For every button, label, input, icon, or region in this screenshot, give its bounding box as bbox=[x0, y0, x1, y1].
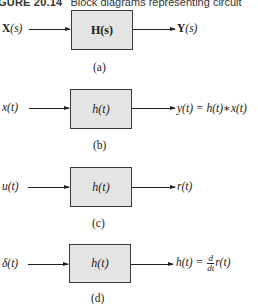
input-text: x(t) bbox=[2, 101, 18, 113]
output-rhs: r(t) bbox=[215, 256, 230, 268]
input-signal-d: δ(t) bbox=[2, 257, 18, 269]
output-signal-b: y(t) = h(t)∗x(t) bbox=[177, 101, 247, 115]
input-arrow-a bbox=[29, 29, 70, 30]
input-signal-c: u(t) bbox=[2, 180, 19, 192]
input-arrow-b bbox=[29, 108, 69, 109]
impulse-response-block-c: h(t) bbox=[70, 167, 132, 207]
output-arrow-d bbox=[131, 264, 173, 265]
output-lhs: h(t) = bbox=[176, 256, 203, 268]
sublabel-d: (d) bbox=[91, 292, 104, 304]
sublabel-b: (b) bbox=[93, 139, 106, 151]
derivative-fraction: d dt bbox=[207, 254, 214, 273]
block-label-b: h(t) bbox=[92, 102, 109, 117]
transfer-block-a: H(s) bbox=[71, 10, 133, 50]
impulse-response-block-d: h(t) bbox=[69, 244, 131, 283]
output-arrow-a bbox=[133, 29, 175, 30]
block-label-a: H(s) bbox=[91, 23, 113, 38]
output-signal-d: h(t) = d dt r(t) bbox=[176, 254, 230, 273]
output-signal-a: Y(s) bbox=[177, 22, 197, 34]
figure-caption: GURE 20.14 Block diagrams representing c… bbox=[0, 0, 242, 8]
fraction-denominator: dt bbox=[207, 264, 214, 273]
sublabel-c: (c) bbox=[92, 217, 105, 229]
input-arg: (s) bbox=[10, 22, 22, 34]
impulse-response-block-b: h(t) bbox=[70, 89, 132, 129]
sublabel-a: (a) bbox=[93, 61, 106, 73]
output-arg: (s) bbox=[185, 22, 197, 34]
block-label-d: h(t) bbox=[91, 256, 108, 271]
input-text: δ(t) bbox=[2, 257, 18, 269]
caption-text: Block diagrams representing circuit bbox=[70, 0, 241, 8]
input-signal-b: x(t) bbox=[2, 101, 18, 113]
input-arrow-d bbox=[28, 264, 68, 265]
output-text: y(t) = h(t)∗x(t) bbox=[177, 102, 247, 114]
figure-label: GURE 20.14 bbox=[0, 0, 62, 8]
input-text: u(t) bbox=[2, 180, 19, 192]
input-arrow-c bbox=[28, 187, 69, 188]
output-signal-c: r(t) bbox=[177, 180, 192, 192]
output-arrow-c bbox=[132, 187, 175, 188]
block-label-c: h(t) bbox=[92, 180, 109, 195]
input-signal-a: X(s) bbox=[2, 22, 22, 34]
output-arrow-b bbox=[132, 108, 175, 109]
output-text: r(t) bbox=[177, 180, 192, 192]
